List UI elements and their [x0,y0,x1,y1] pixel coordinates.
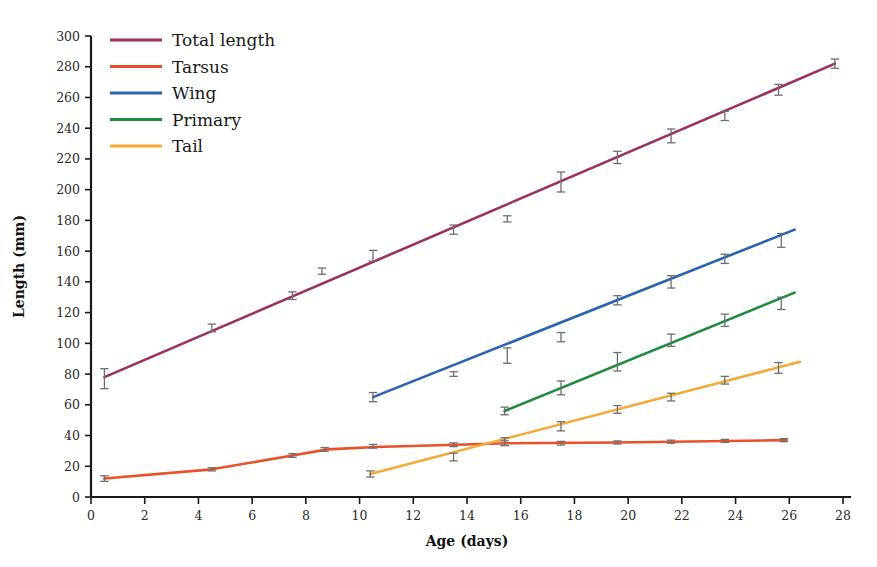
legend-label-tarsus: Tarsus [172,57,229,77]
y-tick-label: 120 [56,305,80,320]
y-tick-label: 40 [64,428,80,443]
y-tick-label: 160 [56,244,80,259]
chart-legend: Total lengthTarsusWingPrimaryTail [110,30,275,156]
y-tick-label: 200 [56,182,80,197]
y-tick-label: 100 [56,336,80,351]
x-tick-label: 18 [566,508,582,523]
x-tick-label: 12 [405,508,421,523]
x-tick-label: 4 [194,508,202,523]
x-tick-label: 2 [141,508,149,523]
x-tick-label: 26 [781,508,797,523]
y-tick-label: 240 [56,121,80,136]
chart-figure: 0204060801001201401601802002202402602803… [0,0,877,567]
y-axis-title: Length (mm) [11,215,27,318]
series-line-primary [505,293,795,411]
y-tick-label: 220 [56,151,80,166]
y-tick-label: 20 [64,459,80,474]
y-tick-label: 80 [64,367,80,382]
line-chart: 0204060801001201401601802002202402602803… [0,0,877,567]
legend-label-primary: Primary [172,110,241,130]
series-line-tarsus [104,440,786,478]
x-tick-label: 24 [728,508,744,523]
y-tick-label: 0 [72,490,80,505]
axis-titles: Age (days)Length (mm) [11,215,508,549]
x-tick-label: 14 [459,508,475,523]
x-tick-label: 10 [352,508,368,523]
y-tick-label: 140 [56,274,80,289]
legend-label-wing: Wing [172,83,217,103]
y-tick-label: 60 [64,397,80,412]
x-axis-title: Age (days) [425,533,509,549]
x-tick-label: 28 [835,508,851,523]
x-tick-label: 8 [302,508,310,523]
y-tick-label: 280 [56,59,80,74]
y-tick-label: 180 [56,213,80,228]
y-tick-label: 300 [56,29,80,44]
x-tick-label: 22 [674,508,690,523]
x-tick-label: 20 [620,508,636,523]
x-tick-label: 16 [513,508,529,523]
x-tick-label: 6 [248,508,256,523]
x-tick-label: 0 [87,508,95,523]
legend-label-total-length: Total length [172,30,275,50]
legend-label-tail: Tail [172,136,203,156]
y-tick-label: 260 [56,90,80,105]
series-line-wing [373,230,795,398]
